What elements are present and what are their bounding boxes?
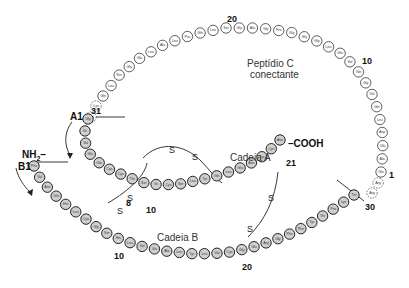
chain-b-residue-label: Leu (201, 252, 207, 256)
chain-b-residue-label: Thr (320, 214, 326, 218)
chain-b-residue-label: Gln (53, 194, 59, 198)
chain-a-residue-label: Asn (277, 138, 283, 142)
proinsulin-diagram: GluAlaGluAspLeuGlnValGlyGlnValGluLeuGlyG… (0, 0, 409, 288)
chain-b-residue-label: Leu (176, 250, 182, 254)
c-peptide-residue-label: Gly (127, 65, 133, 69)
chain-b-residue-label: Glu (152, 247, 158, 251)
sulfur-label: S (169, 145, 175, 155)
chain-b-residue-label: Val (37, 175, 42, 179)
residue-chains: GluAlaGluAspLeuGlnValGlyGlnValGluLeuGlyG… (29, 23, 388, 259)
chain-a-residue-label: Gly (85, 117, 91, 121)
chain-b-residue-label: Gly (239, 248, 245, 252)
c-peptide-label-1: Peptídio C (247, 58, 294, 69)
chain-b-residue-label: Ala (164, 249, 169, 253)
c-peptide-residue-label: Gln (374, 105, 380, 109)
chain-b-residue-label: Tyr (309, 220, 315, 224)
chain-b-residue-label: Gly (93, 225, 99, 229)
chain-a-label: Cadeia A (230, 152, 271, 163)
chain-b-residue-label: Glu (251, 245, 257, 249)
sulfur-label: S (127, 193, 133, 203)
cleavage-residue-label: Arg (369, 191, 375, 195)
sulfur-label: S (117, 206, 123, 216)
chain-a-residue-label: Ser (178, 182, 184, 186)
c-peptide-residue-label: Gly (363, 81, 369, 85)
c-peptide-residue-label: Ser (223, 26, 229, 30)
chain-b-residue-label: Lys (341, 200, 347, 204)
c-number-1: 1 (389, 170, 394, 180)
c-peptide-residue-label: Gly (237, 26, 243, 30)
cleavage-residue-label: Arg (375, 181, 381, 185)
chain-b-residue-label: Arg (263, 241, 269, 245)
chain-b-residue-label: Leu (127, 241, 133, 245)
c-peptide-residue-label: Leu (326, 45, 332, 49)
chain-a-residue-label: Val (83, 141, 88, 145)
c-number-10: 10 (362, 56, 372, 66)
chain-b-residue-label: His (116, 236, 121, 240)
a-number-10: 10 (146, 205, 156, 215)
annotation-lines (16, 117, 364, 201)
chain-a-residue-label: Thr (130, 177, 136, 181)
chain-a-residue-label: Gln (214, 174, 220, 178)
c-peptide-label-2: conectante (250, 69, 299, 80)
c-peptide-residue-label: Gly (314, 39, 320, 43)
a-number-21: 21 (286, 158, 296, 168)
c-peptide-residue-label: Gln (100, 94, 106, 98)
cooh-terminus-label: –COOH (288, 138, 324, 149)
chain-b-residue-label: Leu (73, 210, 79, 214)
c-peptide-residue-label: Leu (148, 50, 154, 54)
chain-a-residue-label: Tyr (202, 177, 208, 181)
chain-a-residue-label: Cys (165, 183, 171, 187)
b1-label: B1 (18, 161, 31, 172)
c-peptide-residue-label: Asp (379, 130, 385, 134)
c-peptide-residue-label: Pro (276, 28, 282, 32)
chain-a-residue-label: Gln (96, 161, 102, 165)
chain-b-label: Cadeia B (157, 232, 198, 243)
c-peptide-residue-label: Glu (380, 144, 386, 148)
c-peptide-residue-label: Glu (337, 51, 343, 55)
c-peptide-residue-label: Gly (263, 27, 269, 31)
chain-b-residue-label: Pro (330, 207, 336, 211)
chain-b-residue-label: Phe (31, 164, 37, 168)
chain-b-residue-label: Cys (83, 217, 89, 221)
c-peptide-residue-label: Gln (197, 31, 203, 35)
chain-a-residue-label: Ser (141, 181, 147, 185)
chain-b-residue-label: Thr (351, 193, 357, 197)
c-peptide-residue-label: Ala (250, 26, 255, 30)
chain-b-residue-label: Phe (298, 227, 304, 231)
c-peptide-residue-label: Gly (289, 31, 295, 35)
chain-a-residue-label: Cys (106, 167, 112, 171)
c-peptide-residue-label: Ala (380, 157, 385, 161)
c-peptide-residue-label: Ser (116, 73, 122, 77)
chain-a-residue-label: Leu (225, 170, 231, 174)
chain-b-residue-label: Val (140, 244, 145, 248)
chain-a-residue-label: Ile (154, 182, 158, 186)
b-number-30: 30 (365, 202, 375, 212)
chain-a-residue-label: Cys (268, 147, 274, 151)
chain-b-residue-label: Cys (226, 250, 232, 254)
c-peptide-residue-label: Ala (160, 43, 165, 47)
c-peptide-residue-label: Glu (378, 170, 384, 174)
chain-b-residue-label: Ser (104, 231, 110, 235)
chain-a-residue-label: Ile (83, 129, 87, 133)
c-peptide-residue-label: Leu (210, 28, 216, 32)
c-peptide-residue-label: Leu (108, 84, 114, 88)
chain-b-residue-label: Val (215, 251, 220, 255)
a1-label: A1 (70, 111, 83, 122)
c-peptide-residue-label: Gly (302, 35, 308, 39)
c-peptide-residue-label: Val (347, 60, 352, 64)
a1-arrowhead-icon (67, 153, 73, 159)
c-peptide-residue-label: Val (370, 92, 375, 96)
c-number-31: 31 (91, 106, 101, 116)
c-peptide-residue-label: Gln (356, 70, 362, 74)
chain-b-residue-label: Gly (275, 237, 281, 241)
c-peptide-residue-label: Pro (185, 35, 191, 39)
chain-b-residue-label: His (63, 202, 68, 206)
chain-b-residue-label: Tyr (189, 252, 195, 256)
chain-a-residue-label: Leu (190, 179, 196, 183)
sulfur-label: S (192, 152, 198, 162)
c-peptide-residue-label: Leu (172, 39, 178, 43)
c-peptide-residue-label: Glu (137, 56, 143, 60)
b-number-10: 10 (114, 251, 124, 261)
c-peptide-residue-label: Leu (377, 118, 383, 122)
chain-a-residue-label: Glu (87, 152, 93, 156)
